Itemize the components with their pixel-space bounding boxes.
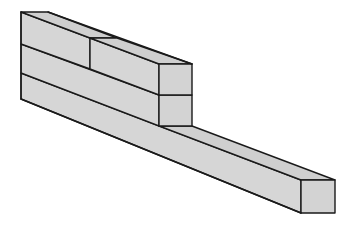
middle-beam-end-face — [159, 95, 192, 126]
stacked-blocks-diagram — [0, 0, 353, 228]
long-beam-end-face — [301, 180, 335, 213]
diagram-canvas — [0, 0, 353, 228]
top-right-block-end-face — [159, 64, 192, 95]
